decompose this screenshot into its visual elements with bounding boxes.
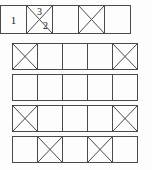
cell-3-1 bbox=[12, 74, 38, 101]
cell-1-5 bbox=[104, 5, 131, 34]
row-4 bbox=[12, 105, 138, 132]
cell-1-2-label-3: 3 bbox=[27, 7, 52, 17]
cell-3-2 bbox=[37, 74, 63, 101]
cell-5-4-diagonals bbox=[88, 137, 112, 162]
cell-4-3 bbox=[62, 105, 88, 132]
cell-4-1 bbox=[12, 105, 38, 132]
cell-5-5 bbox=[112, 136, 138, 163]
cell-2-4 bbox=[87, 43, 113, 70]
cell-1-1: 1 bbox=[0, 5, 27, 34]
cell-1-4 bbox=[78, 5, 105, 34]
cell-5-1 bbox=[12, 136, 38, 163]
cell-4-4 bbox=[87, 105, 113, 132]
cell-1-1-label-1: 1 bbox=[1, 14, 26, 25]
row-3 bbox=[12, 74, 138, 101]
cell-3-5 bbox=[112, 74, 138, 101]
cell-5-3 bbox=[62, 136, 88, 163]
cell-5-2-diagonals bbox=[38, 137, 62, 162]
cell-2-2 bbox=[37, 43, 63, 70]
cell-2-5 bbox=[112, 43, 138, 70]
row-5 bbox=[12, 136, 138, 163]
cell-4-1-diagonals bbox=[13, 106, 37, 131]
row-1: 132 bbox=[0, 5, 131, 34]
cell-3-3 bbox=[62, 74, 88, 101]
cell-1-4-diagonals bbox=[79, 6, 104, 33]
cell-3-4 bbox=[87, 74, 113, 101]
cell-1-2: 32 bbox=[26, 5, 53, 34]
cell-4-5-diagonals bbox=[113, 106, 137, 131]
cell-2-3 bbox=[62, 43, 88, 70]
cell-5-2 bbox=[37, 136, 63, 163]
cell-2-1 bbox=[12, 43, 38, 70]
cell-1-3 bbox=[52, 5, 79, 34]
cell-2-1-diagonals bbox=[13, 44, 37, 69]
cell-5-4 bbox=[87, 136, 113, 163]
cell-4-2 bbox=[37, 105, 63, 132]
cell-1-2-label-2: 2 bbox=[43, 21, 48, 31]
grid-figure: 132 bbox=[0, 0, 152, 170]
cell-2-5-diagonals bbox=[113, 44, 137, 69]
cell-4-5 bbox=[112, 105, 138, 132]
row-2 bbox=[12, 43, 138, 70]
